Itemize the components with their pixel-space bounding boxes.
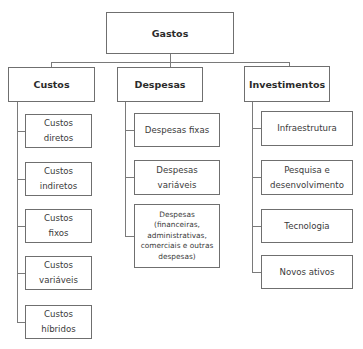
leaf-node-custos-fixos: Custos fixos (25, 209, 92, 243)
leaf-node-custos-variaveis: Custos variáveis (25, 256, 92, 290)
branch-node-investimentos: Investimentos (244, 66, 330, 102)
investimentos-tick (252, 226, 261, 227)
node-label: Tecnologia (284, 219, 329, 234)
despesas-tick (125, 130, 134, 131)
custos-spine (17, 102, 18, 322)
leaf-node-infraestrutura: Infraestrutura (261, 111, 353, 146)
node-label: Despesas fixas (145, 123, 209, 138)
root-node-gastos: Gastos (106, 12, 234, 54)
branch-node-despesas: Despesas (117, 67, 203, 102)
node-label: Custos variáveis (39, 258, 78, 288)
investimentos-tick (252, 177, 261, 178)
leaf-node-novos-ativos: Novos ativos (261, 255, 353, 289)
leaf-node-custos-indiretos: Custos indiretos (25, 162, 92, 196)
custos-tick (17, 226, 25, 227)
leaf-node-pesquisa-desenvolvimento: Pesquisa e desenvolvimento (261, 160, 353, 195)
despesas-tick (125, 236, 134, 237)
leaf-node-custos-hibridos: Custos híbridos (25, 305, 92, 339)
node-label: Despesas (financeiras, administrativas, … (141, 210, 214, 263)
custos-tick (17, 273, 25, 274)
despesas-spine (125, 102, 126, 236)
leaf-node-despesas-variaveis: Despesas variáveis (134, 160, 220, 195)
node-label: Custos diretos (44, 116, 74, 146)
node-label: Despesas (135, 79, 186, 90)
branch-node-custos: Custos (8, 67, 95, 102)
root-connector (170, 54, 171, 62)
leaf-node-custos-diretos: Custos diretos (25, 114, 92, 148)
node-label: Custos híbridos (41, 307, 75, 337)
leaf-node-tecnologia: Tecnologia (261, 209, 353, 243)
node-label: Infraestrutura (277, 121, 337, 136)
node-label: Custos (33, 79, 69, 90)
node-label: Custos fixos (44, 211, 73, 241)
custos-tick (17, 131, 25, 132)
leaf-node-despesas-outras: Despesas (financeiras, administrativas, … (134, 204, 220, 268)
node-label: Custos indiretos (40, 164, 77, 194)
despesas-tick (125, 177, 134, 178)
custos-tick (17, 179, 25, 180)
investimentos-tick (252, 128, 261, 129)
node-label: Investimentos (249, 79, 325, 90)
investimentos-tick (252, 272, 261, 273)
node-label: Novos ativos (279, 265, 334, 280)
node-label: Gastos (152, 28, 189, 39)
node-label: Pesquisa e desenvolvimento (270, 163, 344, 193)
node-label: Despesas variáveis (138, 163, 216, 193)
leaf-node-despesas-fixas: Despesas fixas (134, 113, 220, 147)
custos-tick (17, 322, 25, 323)
